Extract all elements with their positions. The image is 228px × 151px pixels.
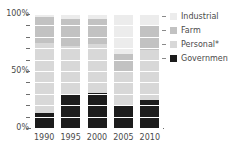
gridline: [31, 48, 163, 49]
bar-segment-personal: [88, 44, 107, 93]
gridline: [31, 117, 163, 118]
legend-item-farm[interactable]: Farm: [170, 23, 228, 37]
y-axis-tick: [26, 60, 30, 61]
gridline: [31, 71, 163, 72]
y-axis-tick: [26, 94, 30, 95]
gridline: [31, 128, 163, 129]
plot-area: [31, 14, 163, 128]
bar-segment-industrial: [140, 14, 159, 25]
bar-segment-personal: [114, 71, 133, 105]
chart-legend: IndustrialFarmPersonal*Government: [170, 9, 228, 65]
legend-swatch: [170, 27, 177, 34]
bar-segment-personal: [35, 43, 54, 114]
legend-label: Government: [181, 54, 228, 63]
legend-tick: [162, 16, 166, 17]
chart-title: [0, 0, 228, 2]
y-axis-tick: [26, 37, 30, 38]
y-axis-tick: [26, 105, 30, 106]
legend-swatch: [170, 41, 177, 48]
bar-segment-farm: [35, 17, 54, 42]
bar-segment-farm: [140, 25, 159, 50]
legend-tick: [162, 30, 166, 31]
y-axis-tick: [26, 128, 30, 129]
gridline: [31, 94, 163, 95]
y-axis: 100% 50% 0%: [0, 0, 29, 151]
legend-tick: [162, 58, 166, 59]
bar-segment-farm: [88, 19, 107, 44]
y-axis-tick: [26, 48, 30, 49]
legend-item-government[interactable]: Government: [170, 51, 228, 65]
bar-segment-government: [140, 100, 159, 129]
legend-swatch: [170, 55, 177, 62]
gridline: [31, 37, 163, 38]
legend-item-industrial[interactable]: Industrial: [170, 9, 228, 23]
chart-container: 100% 50% 0% 19901995200020052010 Industr…: [0, 0, 228, 151]
x-axis-label-2010: 2010: [135, 133, 165, 142]
legend-tick: [162, 44, 166, 45]
legend-label: Farm: [181, 26, 201, 35]
gridline: [31, 14, 163, 15]
y-axis-tick: [26, 71, 30, 72]
y-axis-tick: [26, 14, 30, 15]
legend-item-personal[interactable]: Personal*: [170, 37, 228, 51]
bar-segment-government: [35, 113, 54, 128]
gridline: [31, 82, 163, 83]
legend-swatch: [170, 13, 177, 20]
bar-segment-government: [61, 95, 80, 128]
bar-segment-government: [88, 93, 107, 128]
legend-label: Industrial: [181, 12, 219, 21]
y-axis-tick: [26, 82, 30, 83]
y-axis-tick: [26, 25, 30, 26]
gridline: [31, 60, 163, 61]
bar-segment-farm: [114, 54, 133, 71]
y-axis-tick: [26, 117, 30, 118]
gridline: [31, 105, 163, 106]
bar-segment-farm: [61, 19, 80, 46]
legend-label: Personal*: [181, 40, 219, 49]
bar-segment-personal: [140, 50, 159, 99]
gridline: [31, 25, 163, 26]
